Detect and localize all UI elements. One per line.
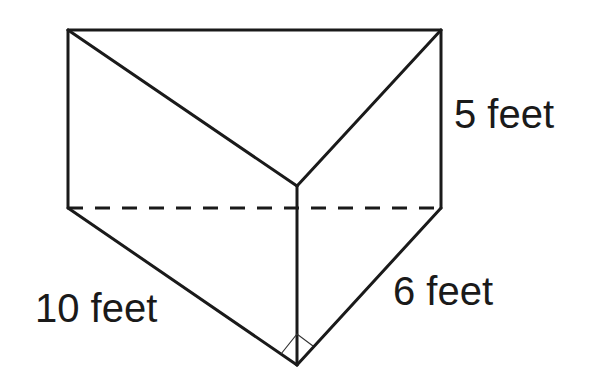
top-left-edge: [68, 30, 297, 186]
hypotenuse-label: 10 feet: [35, 288, 157, 328]
leg-label: 6 feet: [393, 271, 493, 311]
top-right-edge: [297, 30, 441, 186]
height-label: 5 feet: [454, 94, 554, 134]
